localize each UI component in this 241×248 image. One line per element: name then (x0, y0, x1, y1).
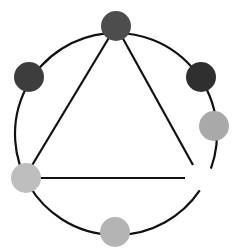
node-lower-left (11, 163, 41, 193)
inner-triangle (28, 26, 193, 178)
node-right (199, 111, 229, 141)
node-bottom (100, 217, 130, 247)
node-upper-right (186, 62, 216, 92)
outer-ring (15, 33, 217, 235)
ring-triangle-diagram (0, 0, 241, 248)
node-top (101, 11, 131, 41)
triangle-right-edge (116, 26, 193, 165)
ring-nodes (11, 11, 229, 247)
triangle-left-edge (28, 26, 116, 172)
node-upper-left (14, 62, 44, 92)
ring-arc (15, 33, 217, 235)
